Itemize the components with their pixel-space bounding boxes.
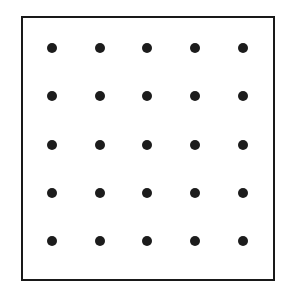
grid-dot-r4-c4 [190,188,200,198]
grid-dot-r4-c2 [95,188,105,198]
grid-dot-r2-c1 [47,91,57,101]
dot-grid-container [23,18,273,279]
grid-dot-r5-c2 [95,236,105,246]
rectangular-border [21,16,275,281]
grid-dot-r1-c1 [47,43,57,53]
grid-dot-r2-c4 [190,91,200,101]
grid-dot-r1-c4 [190,43,200,53]
dot-grid-figure [0,0,290,292]
grid-dot-r2-c2 [95,91,105,101]
grid-dot-r3-c2 [95,140,105,150]
grid-dot-r3-c5 [238,140,248,150]
grid-dot-r1-c5 [238,43,248,53]
grid-dot-r1-c2 [95,43,105,53]
grid-dot-r5-c3 [142,236,152,246]
grid-dot-r2-c5 [238,91,248,101]
grid-dot-r3-c3 [142,140,152,150]
grid-dot-r3-c1 [47,140,57,150]
grid-dot-r4-c1 [47,188,57,198]
grid-dot-r5-c1 [47,236,57,246]
grid-dot-r3-c4 [190,140,200,150]
grid-dot-r2-c3 [142,91,152,101]
grid-dot-r1-c3 [142,43,152,53]
grid-dot-r4-c3 [142,188,152,198]
grid-dot-r5-c5 [238,236,248,246]
grid-dot-r4-c5 [238,188,248,198]
grid-dot-r5-c4 [190,236,200,246]
